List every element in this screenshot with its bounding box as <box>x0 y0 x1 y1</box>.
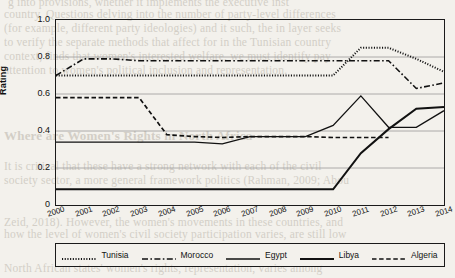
y-axis-tick: 0.2 <box>20 162 50 172</box>
legend-item-libya[interactable]: Libya <box>300 250 359 260</box>
y-axis-tick: 0.8 <box>20 51 50 61</box>
line-chart-figure: Rating 00.20.40.60.81.0 2000200120022003… <box>0 0 455 278</box>
y-axis-label: Rating <box>0 66 8 95</box>
y-axis-tick: 0.6 <box>20 88 50 98</box>
legend-label: Libya <box>339 250 359 260</box>
legend-swatch-egypt <box>226 250 260 260</box>
plot-area <box>55 19 445 206</box>
legend-swatch-tunisia <box>62 250 96 260</box>
legend-swatch-morocco <box>142 250 176 260</box>
series-line-tunisia <box>56 48 444 76</box>
legend-label: Egypt <box>265 250 287 260</box>
legend-item-egypt[interactable]: Egypt <box>226 250 287 260</box>
legend-swatch-libya <box>300 250 334 260</box>
series-line-morocco <box>56 59 444 89</box>
legend-item-algeria[interactable]: Algeria <box>372 250 437 260</box>
chart-legend: TunisiaMoroccoEgyptLibyaAlgeria <box>55 243 445 267</box>
series-line-algeria <box>56 98 389 138</box>
series-line-libya <box>56 107 444 189</box>
y-axis-tick: 1.0 <box>20 14 50 24</box>
y-axis-tick: 0 <box>20 199 50 209</box>
legend-label: Algeria <box>411 250 437 260</box>
legend-label: Tunisia <box>101 250 128 260</box>
legend-item-tunisia[interactable]: Tunisia <box>62 250 128 260</box>
chart-svg <box>56 20 444 205</box>
y-axis-tick: 0.4 <box>20 125 50 135</box>
legend-item-morocco[interactable]: Morocco <box>142 250 214 260</box>
legend-swatch-algeria <box>372 250 406 260</box>
legend-label: Morocco <box>181 250 214 260</box>
